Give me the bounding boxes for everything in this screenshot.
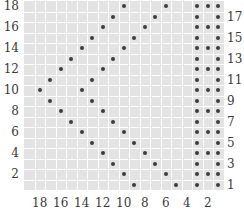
row-label-left: 18 [1,0,19,12]
stitch-dot [69,57,73,61]
chart-grid [24,1,224,190]
row-label-right: 1 [227,179,235,191]
stitch-dot [174,183,178,187]
stitch-dot [216,172,220,176]
stitch-dot [80,130,84,134]
column-label: 16 [51,197,71,209]
row-label-right: 7 [227,116,235,128]
stitch-dot [195,120,199,124]
row-label-right: 13 [227,53,242,65]
stitch-dot [111,15,115,19]
column-label: 18 [30,197,50,209]
stitch-dot [164,172,168,176]
stitch-dot [195,183,199,187]
stitch-dot [195,88,199,92]
row-label-left: 12 [1,63,19,75]
stitch-dot [122,4,126,8]
row-label-left: 14 [1,42,19,54]
gridline-horizontal [24,54,224,55]
gridline-horizontal [24,159,224,160]
gridline-horizontal [24,85,224,86]
stitch-dot [206,46,210,50]
stitch-dot [90,141,94,145]
stitch-dot [195,4,199,8]
stitch-dot [216,88,220,92]
stitch-dot [206,25,210,29]
gridline-horizontal [24,138,224,139]
stitch-dot [206,130,210,134]
stitch-dot [216,120,220,124]
stitch-dot [38,88,42,92]
stitch-dot [90,99,94,103]
row-label-right: 17 [227,11,242,23]
column-label: 6 [156,197,176,209]
stitch-dot [132,36,136,40]
stitch-dot [216,99,220,103]
stitch-dot [111,57,115,61]
stitch-dot [216,183,220,187]
stitch-dot [216,151,220,155]
gridline-horizontal [24,96,224,97]
stitch-dot [195,36,199,40]
stitch-dot [101,151,105,155]
column-label: 14 [72,197,92,209]
stitch-dot [195,162,199,166]
stitch-dot [80,46,84,50]
stitch-dot [216,46,220,50]
gridline-horizontal [24,22,224,23]
stitch-dot [195,141,199,145]
stitch-dot [216,141,220,145]
row-label-right: 15 [227,32,242,44]
stitch-dot [48,78,52,82]
stitch-dot [153,15,157,19]
stitch-dot [90,36,94,40]
stitch-dot [216,36,220,40]
stitch-dot [206,67,210,71]
gridline-horizontal [24,169,224,170]
stitch-dot [143,25,147,29]
column-label: 2 [198,197,218,209]
column-label: 4 [177,197,197,209]
stitch-dot [216,130,220,134]
row-label-right: 5 [227,137,235,149]
stitch-dot [216,162,220,166]
row-label-right: 3 [227,158,235,170]
stitch-dot [206,151,210,155]
stitch-dot [195,78,199,82]
stitch-dot [195,130,199,134]
stitch-dot [195,46,199,50]
stitch-dot [59,109,63,113]
gridline-horizontal [24,75,224,76]
stitch-dot [216,4,220,8]
stitch-dot [69,120,73,124]
column-label: 12 [93,197,113,209]
gridline-horizontal [24,64,224,65]
gridline-horizontal [24,127,224,128]
gridline-horizontal [24,148,224,149]
stitch-chart: 1816141210864217151311975311816141210864… [0,0,244,217]
row-label-left: 8 [1,105,19,117]
stitch-dot [122,130,126,134]
stitch-dot [111,120,115,124]
stitch-dot [48,99,52,103]
stitch-dot [59,67,63,71]
stitch-dot [153,162,157,166]
stitch-dot [206,4,210,8]
stitch-dot [195,67,199,71]
stitch-dot [206,172,210,176]
stitch-dot [132,141,136,145]
stitch-dot [101,109,105,113]
row-label-left: 10 [1,84,19,96]
gridline-horizontal [24,117,224,118]
stitch-dot [216,67,220,71]
stitch-dot [164,4,168,8]
stitch-dot [206,88,210,92]
stitch-dot [216,78,220,82]
stitch-dot [90,78,94,82]
stitch-dot [80,88,84,92]
stitch-dot [143,151,147,155]
stitch-dot [206,109,210,113]
stitch-dot [195,99,199,103]
gridline-horizontal [24,180,224,181]
gridline-horizontal [24,106,224,107]
